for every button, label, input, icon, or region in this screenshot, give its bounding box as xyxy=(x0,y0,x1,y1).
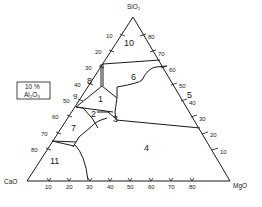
svg-text:20: 20 xyxy=(66,184,73,190)
phase-boundaries xyxy=(52,60,200,180)
field-label-11: 11 xyxy=(50,156,59,166)
svg-text:30: 30 xyxy=(85,65,92,71)
svg-text:40: 40 xyxy=(107,184,114,190)
svg-text:60: 60 xyxy=(169,67,176,73)
svg-text:70: 70 xyxy=(41,131,48,137)
svg-text:50: 50 xyxy=(63,98,70,104)
field-label-1: 1 xyxy=(98,94,103,104)
field-label-7: 7 xyxy=(71,123,76,133)
svg-text:60: 60 xyxy=(52,114,59,120)
svg-text:30: 30 xyxy=(86,184,93,190)
svg-text:80: 80 xyxy=(148,34,155,40)
field-label-8: 8 xyxy=(87,76,92,86)
svg-text:10: 10 xyxy=(106,33,113,39)
svg-text:10: 10 xyxy=(220,149,227,155)
svg-text:Al₂O₃: Al₂O₃ xyxy=(24,91,40,98)
svg-text:70: 70 xyxy=(158,51,165,57)
vertex-label-mgo: MgO xyxy=(233,182,247,190)
field-label-4: 4 xyxy=(144,143,149,153)
field-label-2: 2 xyxy=(91,109,96,119)
svg-text:40: 40 xyxy=(189,100,196,106)
field-label-6: 6 xyxy=(131,72,136,82)
svg-text:80: 80 xyxy=(189,184,196,190)
svg-text:40: 40 xyxy=(74,82,81,88)
field-labels: 10 6 8 5 1 9 2 3 7 4 11 xyxy=(50,38,192,166)
svg-text:10: 10 xyxy=(45,184,52,190)
field-label-9: 9 xyxy=(73,92,78,101)
field-label-3: 3 xyxy=(113,114,118,124)
left-edge-ticks xyxy=(46,34,125,150)
field-label-5: 5 xyxy=(187,90,192,100)
vertex-label-cao: CaO xyxy=(4,178,17,185)
svg-text:70: 70 xyxy=(168,184,175,190)
svg-text:20: 20 xyxy=(210,132,217,138)
svg-text:10 %: 10 % xyxy=(25,83,40,90)
svg-text:50: 50 xyxy=(127,184,134,190)
svg-text:60: 60 xyxy=(148,184,155,190)
svg-text:20: 20 xyxy=(95,49,102,55)
vertex-label-sio2: SiO₂ xyxy=(127,3,141,10)
field-label-10: 10 xyxy=(124,38,134,48)
bottom-edge-tick-labels: 10 20 30 40 50 60 70 80 xyxy=(45,184,196,190)
svg-text:80: 80 xyxy=(31,147,38,153)
ternary-diagram: SiO₂ CaO MgO 10 20 30 40 50 60 70 80 80 … xyxy=(0,0,262,207)
svg-text:50: 50 xyxy=(179,83,186,89)
right-edge-ticks xyxy=(140,34,218,150)
condition-box: 10 % Al₂O₃ xyxy=(17,82,50,99)
svg-text:30: 30 xyxy=(199,116,206,122)
